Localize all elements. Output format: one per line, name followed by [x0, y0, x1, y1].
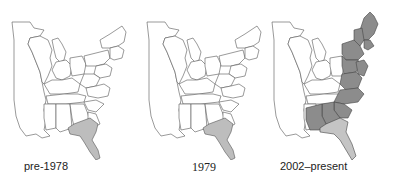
map-panel-1979: 1979 — [135, 0, 270, 190]
eastern-us-map — [270, 0, 405, 160]
map-panel-pre-1978: pre-1978 — [0, 0, 135, 190]
panel-caption: 2002–present — [280, 160, 347, 172]
eastern-us-map — [135, 0, 270, 160]
panel-caption: 1979 — [192, 160, 216, 175]
map-panel-2002-present: 2002–present — [270, 0, 405, 190]
eastern-us-map — [0, 0, 135, 160]
panel-caption: pre-1978 — [24, 160, 68, 172]
